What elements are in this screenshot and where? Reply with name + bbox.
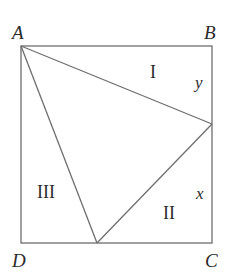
segment-ae bbox=[21, 46, 212, 124]
segment-ef bbox=[97, 124, 212, 243]
variable-label-y: y bbox=[193, 73, 203, 92]
geometry-diagram: A B C D I II III y x bbox=[0, 0, 230, 274]
region-label-iii: III bbox=[37, 182, 55, 202]
square-abcd bbox=[21, 46, 212, 243]
segment-af bbox=[21, 46, 97, 243]
vertex-label-a: A bbox=[10, 22, 24, 43]
vertex-label-d: D bbox=[11, 250, 26, 271]
vertex-label-b: B bbox=[204, 22, 216, 43]
variable-label-x: x bbox=[195, 184, 204, 203]
region-label-ii: II bbox=[163, 203, 175, 223]
vertex-label-c: C bbox=[205, 250, 218, 271]
region-label-i: I bbox=[150, 62, 156, 82]
